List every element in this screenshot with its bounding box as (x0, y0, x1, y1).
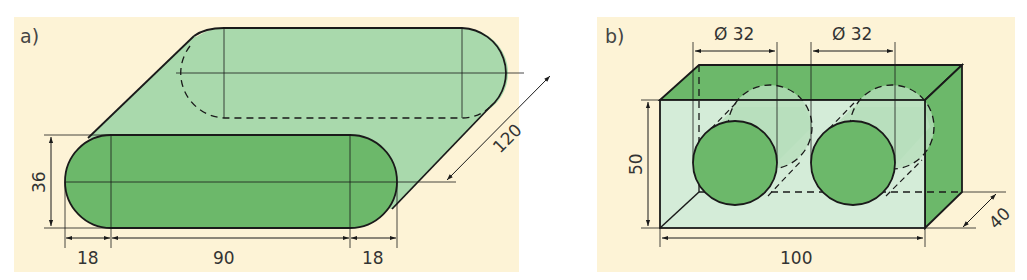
dim-hole-2-label: Ø 32 (832, 24, 872, 44)
panel-a-label: a) (20, 25, 39, 47)
dim-right-radius-label: 18 (362, 248, 384, 268)
dim-height-label: 36 (29, 171, 49, 193)
dim-middle-label: 90 (213, 248, 235, 268)
technical-drawing: a) 36 18 90 18 (0, 0, 1027, 280)
panel-b: b) Ø 32 Ø 32 (597, 17, 1015, 272)
dim-hole-1-label: Ø 32 (714, 24, 754, 44)
panel-a: a) 36 18 90 18 (14, 17, 550, 272)
hole-2-front-circle (811, 121, 895, 205)
dim-left-radius-label: 18 (77, 248, 99, 268)
front-stadium-face (65, 135, 397, 228)
hole-1-front-circle (693, 121, 777, 205)
dim-height-label: 50 (626, 153, 646, 175)
dim-width-label: 100 (780, 248, 812, 268)
panel-b-label: b) (605, 25, 624, 47)
